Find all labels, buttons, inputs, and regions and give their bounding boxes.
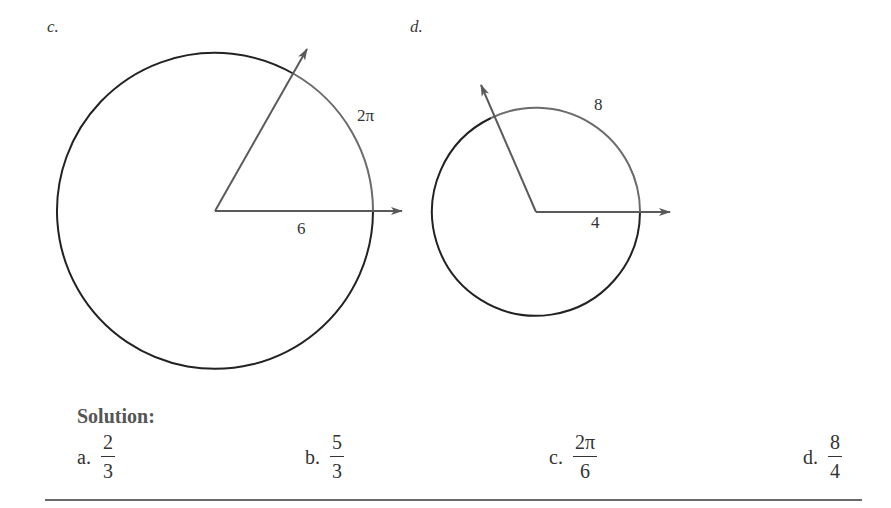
horizontal-rule: [45, 499, 862, 501]
answer-d-numerator: 8: [828, 432, 842, 452]
figure-d-label: d.: [410, 17, 423, 37]
answer-d-fraction: 8 4: [828, 432, 842, 481]
circle-c-subtended-arc: [294, 74, 373, 211]
answer-b-denominator: 3: [330, 461, 344, 481]
answer-b-letter: b.: [305, 447, 320, 467]
answer-a-fraction: 2 3: [101, 432, 115, 481]
answer-c-letter: c.: [549, 447, 563, 467]
fraction-bar: [330, 456, 344, 457]
circle-d-angled-ray: [481, 85, 536, 212]
answer-a: a. 2 3: [77, 432, 115, 481]
figure-c-label: c.: [47, 17, 59, 37]
figure-d: [432, 85, 670, 316]
circle-d-major-arc: [432, 118, 640, 316]
figure-d-arc-length-label: 8: [594, 96, 603, 113]
answer-c-fraction: 2π 6: [573, 432, 597, 481]
fraction-bar: [828, 456, 842, 457]
answer-d-denominator: 4: [828, 461, 842, 481]
answer-b-fraction: 5 3: [330, 432, 344, 481]
answer-a-letter: a.: [77, 447, 91, 467]
answer-b: b. 5 3: [305, 432, 344, 481]
figure-c-radius-label: 6: [297, 220, 306, 237]
fraction-bar: [101, 456, 115, 457]
solution-heading: Solution:: [77, 406, 155, 426]
answer-a-denominator: 3: [101, 461, 115, 481]
answer-c-numerator: 2π: [573, 432, 597, 452]
answer-d-letter: d.: [803, 447, 818, 467]
answer-d: d. 8 4: [803, 432, 842, 481]
answer-c: c. 2π 6: [549, 432, 597, 481]
answer-a-numerator: 2: [101, 432, 115, 452]
radian-diagrams: [0, 0, 891, 508]
figure-c-arc-length-label: 2π: [357, 107, 374, 124]
circle-c-angled-ray: [215, 49, 307, 211]
figure-d-radius-label: 4: [591, 214, 600, 231]
fraction-bar: [573, 456, 597, 457]
answer-c-denominator: 6: [578, 461, 592, 481]
figure-c: [57, 49, 402, 369]
answer-b-numerator: 5: [330, 432, 344, 452]
